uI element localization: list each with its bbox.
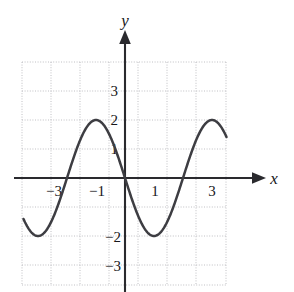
y-tick-label: 3 xyxy=(111,83,119,99)
y-tick-label: 2 xyxy=(111,112,119,128)
y-axis-label: y xyxy=(119,11,129,30)
x-tick-label: 3 xyxy=(208,183,216,199)
graph-figure: x y −3 −1 1 3 3 2 1 −2 −3 xyxy=(0,0,294,292)
y-tick-label: −2 xyxy=(105,229,121,245)
y-axis-arrow-icon xyxy=(119,30,131,44)
coordinate-plane: x y −3 −1 1 3 3 2 1 −2 −3 xyxy=(0,0,294,292)
axis-lines xyxy=(14,30,266,292)
x-tick-label: 1 xyxy=(151,183,159,199)
x-axis-label: x xyxy=(269,169,278,188)
y-tick-label: −3 xyxy=(105,258,121,274)
x-tick-label: −1 xyxy=(89,183,105,199)
x-tick-label: −3 xyxy=(46,183,62,199)
x-axis-arrow-icon xyxy=(252,172,266,184)
